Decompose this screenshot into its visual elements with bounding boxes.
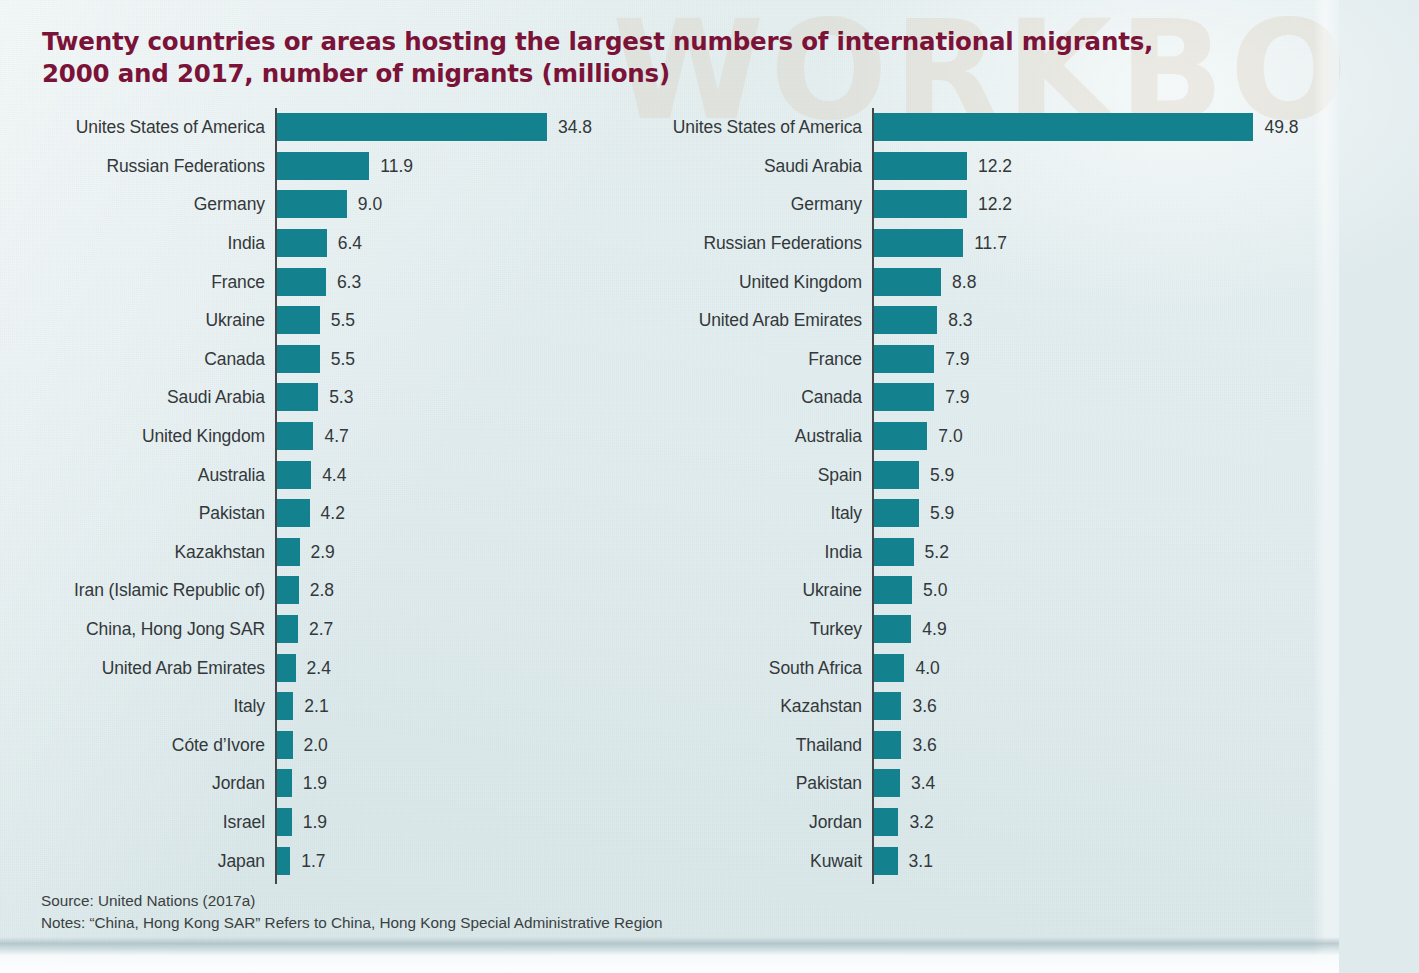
- chart-row: Pakistan4.2: [0, 494, 640, 533]
- bar: [874, 461, 919, 489]
- category-label: Germany: [0, 194, 265, 215]
- category-label: United Kingdom: [0, 426, 265, 447]
- chart-row: Kazakhstan2.9: [0, 533, 640, 572]
- bar-value-label: 5.3: [329, 387, 353, 408]
- category-label: France: [598, 348, 862, 369]
- category-label: United Kingdom: [598, 271, 862, 292]
- bar-value-label: 2.9: [311, 541, 335, 562]
- chart-row: Saudi Arabia12.2: [598, 147, 1338, 186]
- bar: [874, 731, 901, 759]
- chart-row: Russian Federations11.9: [0, 147, 640, 186]
- chart-row: United Arab Emirates2.4: [0, 648, 640, 687]
- category-label: Jordan: [598, 812, 862, 833]
- category-label: Kazahstan: [598, 696, 862, 717]
- chart-row: China, Hong Jong SAR2.7: [0, 610, 640, 649]
- category-label: Germany: [598, 194, 862, 215]
- bar: [874, 383, 934, 411]
- bar-value-label: 2.7: [309, 619, 333, 640]
- bar-value-label: 6.3: [337, 271, 361, 292]
- bar: [277, 731, 293, 759]
- bar-value-label: 4.9: [922, 619, 946, 640]
- bar: [874, 268, 941, 296]
- chart-row: United Kingdom4.7: [0, 417, 640, 456]
- category-label: Pakistan: [598, 773, 862, 794]
- page-title: Twenty countries or areas hosting the la…: [42, 26, 1162, 91]
- category-label: Russian Federations: [0, 155, 265, 176]
- category-label: Canada: [598, 387, 862, 408]
- category-label: Russian Federations: [598, 233, 862, 254]
- bar: [277, 229, 327, 257]
- chart-row: India6.4: [0, 224, 640, 263]
- chart-row: Kazahstan3.6: [598, 687, 1338, 726]
- bar: [874, 808, 898, 836]
- bar-value-label: 7.9: [945, 348, 969, 369]
- category-label: India: [598, 541, 862, 562]
- chart-row: Spain5.9: [598, 455, 1338, 494]
- bar-value-label: 12.2: [978, 194, 1012, 215]
- bar-value-label: 1.9: [303, 773, 327, 794]
- bar: [874, 769, 900, 797]
- category-label: Jordan: [0, 773, 265, 794]
- chart-row: Ukraine5.0: [598, 571, 1338, 610]
- chart-row: Italy5.9: [598, 494, 1338, 533]
- bar-value-label: 4.2: [321, 503, 345, 524]
- bar: [277, 190, 347, 218]
- bar: [277, 769, 292, 797]
- bar-value-label: 34.8: [558, 117, 592, 138]
- bar: [277, 268, 326, 296]
- bar-value-label: 4.0: [915, 657, 939, 678]
- bar-value-label: 5.9: [930, 503, 954, 524]
- bar-value-label: 3.2: [909, 812, 933, 833]
- category-label: Canada: [0, 348, 265, 369]
- category-label: Cóte d’Ivore: [0, 734, 265, 755]
- bar-value-label: 2.1: [304, 696, 328, 717]
- bar-value-label: 3.1: [909, 850, 933, 871]
- chart-row: Unites States of America34.8: [0, 108, 640, 147]
- chart-row: France7.9: [598, 340, 1338, 379]
- bar-value-label: 11.9: [380, 155, 413, 176]
- bar-value-label: 5.9: [930, 464, 954, 485]
- chart-row: Thailand3.6: [598, 726, 1338, 765]
- bar-value-label: 3.6: [912, 696, 936, 717]
- category-label: Saudi Arabia: [598, 155, 862, 176]
- bar: [874, 692, 901, 720]
- chart-row: Cóte d’Ivore2.0: [0, 726, 640, 765]
- bar: [874, 306, 937, 334]
- category-label: Israel: [0, 812, 265, 833]
- chart-row: Saudi Arabia5.3: [0, 378, 640, 417]
- chart-row: Germany12.2: [598, 185, 1338, 224]
- category-label: United Arab Emirates: [0, 657, 265, 678]
- bar: [874, 654, 904, 682]
- bar-value-label: 4.7: [324, 426, 348, 447]
- chart-footnotes: Source: United Nations (2017a) Notes: “C…: [41, 890, 663, 933]
- bar-value-label: 1.9: [303, 812, 327, 833]
- bar: [277, 538, 300, 566]
- bar: [874, 499, 919, 527]
- bar: [277, 422, 313, 450]
- bar-value-label: 5.5: [331, 348, 355, 369]
- bar-value-label: 3.6: [912, 734, 936, 755]
- category-label: Australia: [0, 464, 265, 485]
- chart-row: Germany9.0: [0, 185, 640, 224]
- bar: [874, 538, 914, 566]
- chart-row: Iran (Islamic Republic of)2.8: [0, 571, 640, 610]
- bar: [277, 152, 369, 180]
- category-label: Iran (Islamic Republic of): [0, 580, 265, 601]
- bar: [874, 576, 912, 604]
- chart-row: France6.3: [0, 262, 640, 301]
- bar-value-label: 4.4: [322, 464, 346, 485]
- source-note: Source: United Nations (2017a): [41, 890, 663, 912]
- bar-value-label: 8.3: [948, 310, 972, 331]
- chart-row: Japan1.7: [0, 841, 640, 880]
- bar: [277, 461, 311, 489]
- category-label: Kazakhstan: [0, 541, 265, 562]
- category-label: Japan: [0, 850, 265, 871]
- category-label: Italy: [598, 503, 862, 524]
- bar: [277, 615, 298, 643]
- category-label: Saudi Arabia: [0, 387, 265, 408]
- bar-value-label: 2.0: [304, 734, 328, 755]
- chart-row: Italy2.1: [0, 687, 640, 726]
- bar: [874, 422, 927, 450]
- category-label: Ukraine: [0, 310, 265, 331]
- category-label: Unites States of America: [598, 117, 862, 138]
